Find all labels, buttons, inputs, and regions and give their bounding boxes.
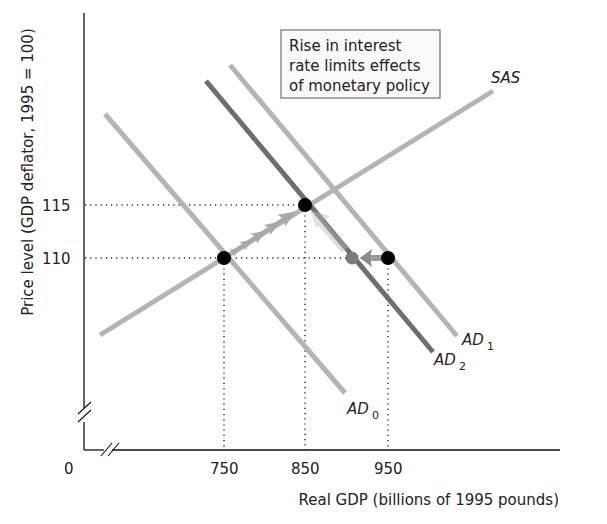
ad2-label: AD 2: [433, 351, 466, 373]
ad2-movement-arrow: [310, 210, 345, 250]
annotation-line-2: rate limits effects: [289, 57, 421, 75]
chart: Rise in interest rate limits effects of …: [0, 0, 607, 524]
y-tick-115: 115: [42, 197, 71, 215]
x-axis-title: Real GDP (billions of 1995 pounds): [299, 491, 559, 509]
annotation-line-3: of monetary policy: [289, 77, 430, 95]
curves: [100, 65, 493, 393]
x-tick-850: 850: [291, 460, 320, 478]
horizontal-shift-arrow: [360, 249, 382, 267]
y-tick-110: 110: [42, 250, 71, 268]
sas-movement-arrow: [228, 206, 299, 259]
point-905-110: [346, 252, 359, 265]
ad1-label-main: AD: [461, 331, 484, 349]
ad0-label: AD 0: [346, 400, 379, 422]
annotation-line-1: Rise in interest: [289, 37, 402, 55]
x-tick-950: 950: [374, 460, 403, 478]
x-tick-750: 750: [210, 460, 239, 478]
sas-label: SAS: [491, 69, 521, 87]
ad0-label-sub: 0: [372, 409, 379, 422]
point-750-110: [217, 251, 231, 265]
x-tick-0: 0: [64, 460, 74, 478]
point-950-110: [381, 251, 395, 265]
ad2-label-sub: 2: [459, 360, 466, 373]
y-axis-title: Price level (GDP deflator, 1995 = 100): [19, 28, 37, 316]
annotation-box: Rise in interest rate limits effects of …: [281, 30, 440, 98]
sas-curve: [100, 91, 493, 335]
ad0-label-main: AD: [346, 400, 369, 418]
ad1-label-sub: 1: [487, 340, 494, 353]
point-850-115: [298, 198, 312, 212]
ad2-label-main: AD: [433, 351, 456, 369]
ad1-label: AD 1: [461, 331, 494, 353]
